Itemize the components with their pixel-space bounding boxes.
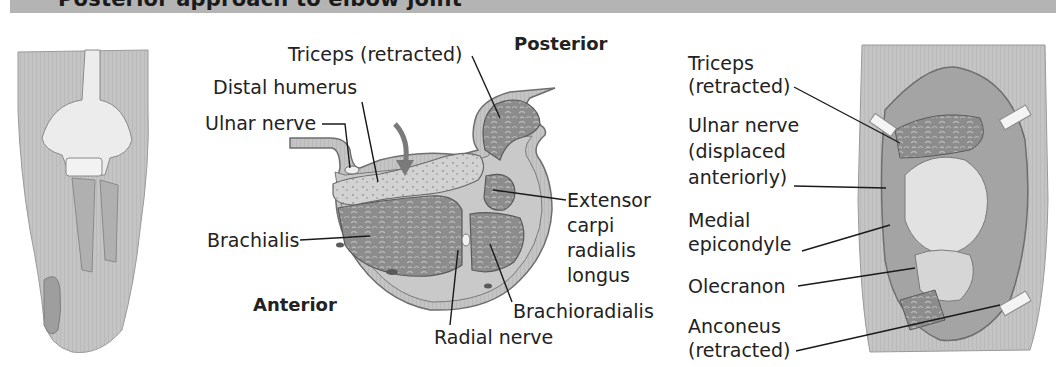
label-extensor-carpi-radialis-longus: Extensor carpi radialis longus — [567, 188, 667, 288]
label-medial-epicondyle: Medial epicondyle — [688, 208, 791, 256]
label-olecranon: Olecranon — [688, 276, 786, 297]
left-elbow-illustration — [18, 50, 148, 353]
label-anconeus: Anconeus (retracted) — [688, 314, 790, 362]
label-brachialis: Brachialis — [207, 230, 299, 251]
label-posterior: Posterior — [514, 33, 607, 54]
surgical-exposure-illustration — [858, 45, 1048, 352]
elbow-cross-section — [290, 88, 555, 310]
label-radial-nerve: Radial nerve — [434, 327, 553, 348]
label-distal-humerus: Distal humerus — [213, 77, 357, 98]
label-brachioradialis: Brachioradialis — [513, 301, 654, 322]
label-ulnar-nerve: Ulnar nerve — [205, 113, 316, 134]
label-right-ulnar-nerve: Ulnar nerve (displaced anteriorly) — [688, 112, 799, 190]
label-right-triceps: Triceps (retracted) — [688, 52, 790, 98]
label-anterior: Anterior — [253, 294, 337, 315]
label-triceps-retracted: Triceps (retracted) — [288, 44, 463, 65]
